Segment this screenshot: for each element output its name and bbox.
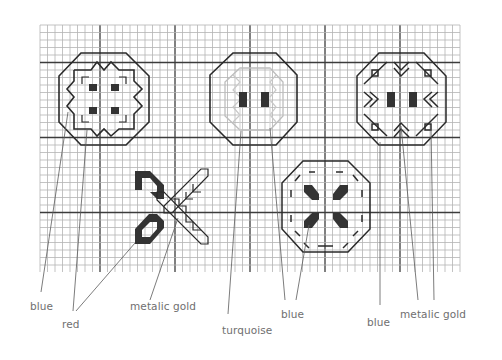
label-blue-1: blue <box>30 300 53 312</box>
leader-turquoise <box>228 131 241 314</box>
label-red: red <box>62 318 80 330</box>
motif-octagon-zigzag <box>59 53 149 145</box>
stitch-grid <box>40 25 460 272</box>
label-blue-3: blue <box>367 316 390 328</box>
leader-metalic-gold-2b <box>431 128 434 300</box>
leader-metalic-gold-1 <box>150 218 178 300</box>
label-metalic-gold-1: metalic gold <box>130 300 196 312</box>
cross-stitch-chart <box>0 0 502 360</box>
label-metalic-gold-2: metalic gold <box>400 308 466 320</box>
motif-octagon-turquoise <box>210 53 297 145</box>
label-blue-2: blue <box>281 308 304 320</box>
motif-x-ribbon <box>135 169 208 244</box>
label-turquoise: turquoise <box>222 324 272 336</box>
